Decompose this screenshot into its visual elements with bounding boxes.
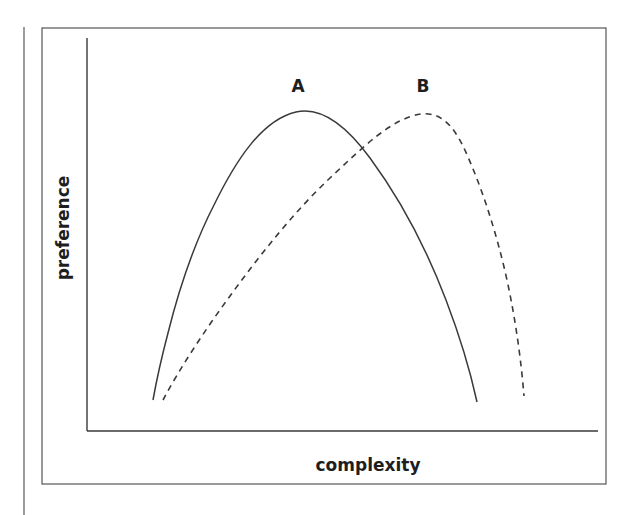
preference-complexity-diagram: A B preference complexity <box>0 0 633 515</box>
curve-b-label: B <box>417 76 430 96</box>
figure-frame <box>42 28 606 484</box>
curve-a-label: A <box>291 76 305 96</box>
y-axis-label: preference <box>53 176 73 281</box>
figure: A B preference complexity <box>0 0 633 515</box>
x-axis-label: complexity <box>316 455 421 475</box>
curve-a-solid <box>153 111 477 402</box>
curve-b-dashed <box>163 114 524 400</box>
